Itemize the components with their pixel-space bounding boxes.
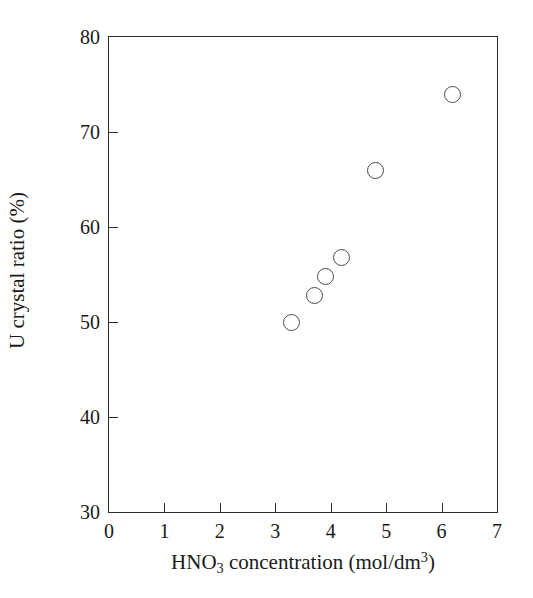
x-tick-label: 4 <box>326 521 336 541</box>
data-point <box>306 287 323 304</box>
y-axis-title: U crystal ratio (%) <box>0 32 34 509</box>
data-point <box>317 268 334 285</box>
data-point <box>283 314 300 331</box>
x-axis-title-subscript: 3 <box>217 560 224 576</box>
y-tick-label: 50 <box>80 312 100 332</box>
y-tick-label: 30 <box>80 502 100 522</box>
x-tick-label: 6 <box>437 521 447 541</box>
y-tick-mark <box>109 417 118 418</box>
y-tick-label: 40 <box>80 407 100 427</box>
plot-area: 304050607080 01234567 <box>108 36 498 513</box>
y-tick-mark <box>109 132 118 133</box>
x-tick-mark <box>386 503 387 512</box>
x-tick-mark <box>164 503 165 512</box>
y-tick-label: 60 <box>80 217 100 237</box>
x-tick-label: 0 <box>104 521 114 541</box>
x-axis-title: HNO3 concentration (mol/dm3) <box>108 549 498 577</box>
y-tick-mark <box>109 227 118 228</box>
data-point <box>444 86 461 103</box>
x-tick-mark <box>275 503 276 512</box>
data-point <box>333 249 350 266</box>
x-tick-mark <box>220 503 221 512</box>
y-tick-label: 70 <box>80 122 100 142</box>
x-axis-title-base3: ) <box>428 550 435 574</box>
x-tick-label: 2 <box>215 521 225 541</box>
y-tick-label: 80 <box>80 27 100 47</box>
x-tick-label: 3 <box>270 521 280 541</box>
x-axis-title-superscript: 3 <box>421 549 428 565</box>
x-tick-mark <box>331 503 332 512</box>
x-tick-label: 1 <box>159 521 169 541</box>
x-tick-label: 7 <box>492 521 502 541</box>
x-axis-title-base2: concentration (mol/dm <box>224 550 421 574</box>
data-point <box>367 162 384 179</box>
x-axis-title-base1: HNO <box>171 550 217 574</box>
scatter-chart-figure: 304050607080 01234567 U crystal ratio (%… <box>0 0 533 598</box>
x-tick-mark <box>442 503 443 512</box>
x-tick-label: 5 <box>381 521 391 541</box>
y-tick-mark <box>109 322 118 323</box>
